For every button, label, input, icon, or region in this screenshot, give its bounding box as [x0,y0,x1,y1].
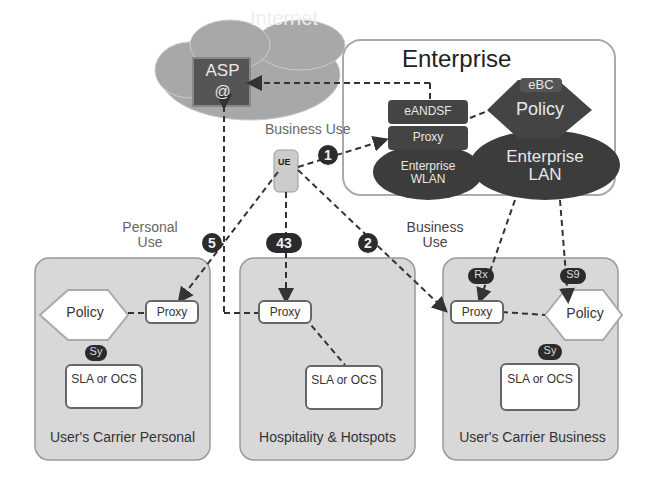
ue-label: UE [278,158,291,167]
business-use-top-label: Business Use [265,122,351,137]
business-carrier-name: User's Carrier Business [455,430,610,445]
step-badge-1: 1 [318,145,338,165]
enterprise-policy-label: Policy [500,100,580,119]
business-rx-badge: Rx [468,268,494,284]
enterprise-proxy-label: Proxy [388,131,468,144]
personal-sla-ocs: SLA or OCS [65,364,143,409]
ebc-label: eBC [520,78,562,92]
eandsf-label: eANDSF [388,105,468,118]
step-badge-5: 5 [202,233,222,253]
enterprise-lan: Enterprise LAN [495,148,595,184]
hospitality-name: Hospitality & Hotspots [250,430,405,445]
business-proxy: Proxy [450,300,504,324]
hospitality-proxy: Proxy [258,300,312,324]
step-badge-2: 2 [358,233,378,253]
step-badge-43: 43 [266,233,302,253]
personal-sy-badge: Sy [85,345,107,361]
enterprise-wlan: Enterprise WLAN [393,160,463,185]
internet-label: Internet [250,8,318,29]
asp-label: ASP [195,62,250,80]
business-use-right-label: Business Use [400,220,470,249]
business-sy-badge: Sy [538,344,562,360]
business-sla-ocs: SLA or OCS [500,363,580,411]
business-policy-label: Policy [550,306,620,321]
personal-carrier-name: User's Carrier Personal [40,430,205,445]
personal-proxy: Proxy [145,300,199,324]
personal-use-label: Personal Use [115,220,185,249]
at-icon: @ [195,84,250,101]
business-s9-badge: S9 [560,268,586,284]
hospitality-sla-ocs: SLA or OCS [305,365,383,410]
enterprise-title: Enterprise [402,46,511,71]
diagram-canvas [0,0,657,486]
personal-policy-label: Policy [50,305,120,320]
